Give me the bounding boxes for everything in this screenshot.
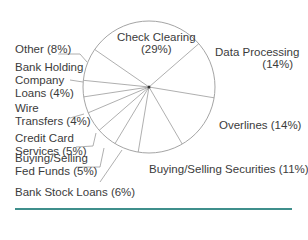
- label-overlines: Overlines (14%): [219, 119, 301, 131]
- pie-center: [148, 86, 151, 89]
- label-other: Other (8%): [15, 43, 71, 55]
- label-bhc-loans: Bank HoldingCompanyLoans (4%): [15, 61, 83, 99]
- label-securities: Buying/Selling Securities (11%): [149, 163, 308, 175]
- label-wire-transfers: WireTransfers (4%): [15, 102, 91, 127]
- label-bank-stock-loans: Bank Stock Loans (6%): [15, 186, 135, 198]
- label-data-processing: Data Processing(14%): [215, 46, 293, 70]
- label-check-clearing: Check Clearing(29%): [117, 31, 196, 55]
- divider-rule: [15, 208, 292, 210]
- label-credit-card: Credit CardServices (5%): [15, 132, 87, 157]
